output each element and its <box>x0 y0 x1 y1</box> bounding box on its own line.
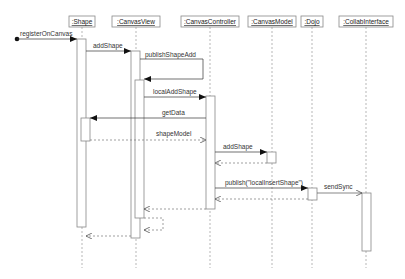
lifeline-label: :CanvasModel <box>251 18 293 25</box>
activation-shape-nested <box>81 118 90 141</box>
lifeline-canvasmodel: :CanvasModel <box>248 16 296 268</box>
activation-canvasview-nested <box>135 80 144 218</box>
svg-text:addShape: addShape <box>93 42 123 50</box>
svg-text:addShape: addShape <box>223 143 253 151</box>
svg-text:sendSync: sendSync <box>324 183 353 191</box>
lifeline-label: :CanvasView <box>117 18 155 25</box>
message-getData: getData <box>90 109 206 118</box>
svg-text:getData: getData <box>162 109 185 117</box>
message-addShape: addShape <box>86 42 131 51</box>
activation-collabinterface <box>362 193 371 251</box>
svg-text:publish("localInsertShape"): publish("localInsertShape") <box>225 179 303 187</box>
message-publishShapeAdd: publishShapeAdd <box>140 51 203 79</box>
svg-text:publishShapeAdd: publishShapeAdd <box>145 51 196 59</box>
lifeline-label: :CanvasController <box>184 18 237 25</box>
message-addShape-model: addShape <box>215 143 267 152</box>
message-self-return-canvasview <box>144 218 163 230</box>
message-sendSync: sendSync <box>317 183 362 193</box>
activation-canvascontroller <box>206 96 215 209</box>
svg-text:registerOnCanvas: registerOnCanvas <box>20 30 73 38</box>
lifeline-label: :Dojo <box>304 18 320 26</box>
svg-text:shapeModel: shapeModel <box>156 130 192 138</box>
activation-canvasmodel <box>267 152 276 163</box>
message-shapeModel: shapeModel <box>90 130 206 140</box>
activation-dojo <box>308 188 317 200</box>
lifeline-label: :CollabInterface <box>343 18 389 25</box>
message-localAddShape: localAddShape <box>144 88 206 97</box>
sequence-diagram: :Shape :CanvasView :CanvasController :Ca… <box>0 0 405 279</box>
message-publish-localInsertShape: publish("localInsertShape") <box>215 179 308 188</box>
lifeline-dojo: :Dojo <box>301 16 323 268</box>
lifeline-label: :Shape <box>72 18 93 26</box>
svg-text:localAddShape: localAddShape <box>153 88 197 96</box>
message-registerOnCanvas: registerOnCanvas <box>15 30 77 41</box>
